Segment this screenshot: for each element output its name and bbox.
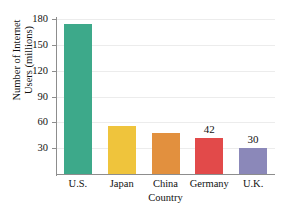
internet-users-bar-chart: Number of Internet Users (millions) 3060… — [0, 0, 281, 218]
bar-value-label-germany: 42 — [189, 124, 229, 135]
x-axis-title: Country — [56, 192, 275, 204]
y-tick-mark-150 — [52, 45, 57, 46]
y-tick-label-30: 30 — [20, 143, 48, 153]
y-tick-label-150: 150 — [20, 40, 48, 50]
bar-japan — [108, 126, 136, 174]
y-tick-label-90: 90 — [20, 92, 48, 102]
y-tick-mark-120 — [52, 71, 57, 72]
y-tick-mark-180 — [52, 19, 57, 20]
x-axis-line — [56, 174, 275, 175]
y-tick-label-180: 180 — [20, 14, 48, 24]
plot-area — [56, 19, 275, 174]
bar-us — [64, 24, 92, 174]
y-tick-mark-60 — [52, 122, 57, 123]
x-tick-label-uk: U.K. — [227, 178, 279, 190]
chart-title — [62, 0, 232, 2]
y-tick-mark-30 — [52, 148, 57, 149]
gridline-180 — [56, 19, 275, 20]
y-tick-mark-90 — [52, 97, 57, 98]
bar-germany — [195, 138, 223, 174]
bar-china — [152, 133, 180, 174]
bar-value-label-uk: 30 — [233, 134, 273, 145]
y-tick-label-60: 60 — [20, 117, 48, 127]
bar-uk — [239, 148, 267, 174]
y-tick-label-120: 120 — [20, 66, 48, 76]
